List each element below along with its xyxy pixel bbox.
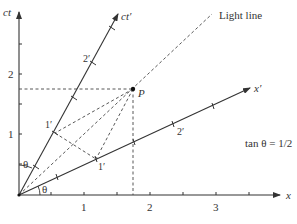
- x-axis-label: x: [285, 189, 291, 201]
- light-line-label: Light line: [219, 9, 262, 21]
- x-prime-axis: [19, 88, 250, 195]
- x-tick-label-2: 2: [147, 201, 153, 213]
- ct-axis-label: ct: [3, 6, 12, 18]
- angle-label-x: θ: [42, 183, 47, 195]
- x-prime-tick-label-1: 1′: [98, 161, 105, 172]
- ct-prime-tick-label-1: 1′: [45, 119, 52, 130]
- x-tick-label-1: 1: [81, 201, 87, 213]
- ct-prime-tick-label-2: 2′: [83, 53, 90, 64]
- point-p-label: P: [137, 87, 145, 99]
- ct-prime-axis-label: ct′: [121, 10, 132, 22]
- angle-arc-x: [38, 186, 40, 195]
- origin-point: [17, 193, 20, 196]
- angle-label-ct: θ: [23, 158, 28, 170]
- x-tick-label-3: 3: [213, 201, 219, 213]
- x-prime-tick-label-2: 2′: [177, 126, 184, 137]
- point-p: [131, 87, 135, 91]
- ct-tick-label-2: 2: [8, 68, 14, 80]
- spacetime-diagram: ct x ct′ x′ 1 2 3 1 2 1′ 2′ 1′ 2′ Light …: [0, 0, 297, 224]
- ct-prime-1-to-x-prime-1: [55, 133, 96, 159]
- ct-tick-label-1: 1: [8, 128, 14, 140]
- tan-theta-equation: tan θ = 1/2: [245, 137, 292, 149]
- x-prime-axis-label: x′: [253, 82, 262, 94]
- p-to-x-prime-1: [96, 89, 133, 159]
